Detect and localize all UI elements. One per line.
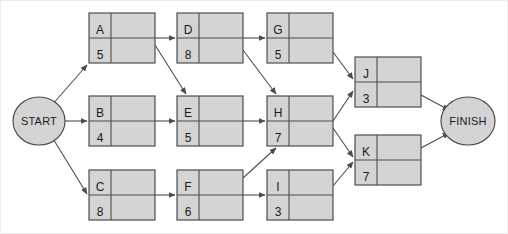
task-node-k[interactable]: K7 — [355, 135, 421, 185]
network-diagram-canvas: A5D8G5B4E5H7C8F6I3J3K7 STARTFINISH — [0, 0, 508, 234]
node-duration-label: 8 — [185, 48, 192, 62]
task-node-b[interactable]: B4 — [89, 96, 155, 146]
task-node-f[interactable]: F6 — [177, 170, 243, 220]
task-node-e[interactable]: E5 — [177, 96, 243, 146]
node-id-label: B — [96, 106, 104, 120]
task-node-i[interactable]: I3 — [267, 170, 333, 220]
node-id-label: H — [274, 106, 283, 120]
task-node-g[interactable]: G5 — [267, 13, 333, 63]
finish-label: FINISH — [449, 115, 486, 127]
task-node-c[interactable]: C8 — [89, 170, 155, 220]
node-id-label: I — [276, 180, 279, 194]
node-duration-label: 5 — [275, 48, 282, 62]
node-id-label: F — [184, 180, 191, 194]
task-node-d[interactable]: D8 — [177, 13, 243, 63]
node-duration-label: 6 — [185, 205, 192, 219]
node-id-label: D — [184, 23, 193, 37]
node-id-label: E — [184, 106, 192, 120]
task-node-h[interactable]: H7 — [267, 96, 333, 146]
node-duration-label: 5 — [97, 48, 104, 62]
task-node-a[interactable]: A5 — [89, 13, 155, 63]
node-id-label: J — [363, 67, 369, 81]
node-id-label: G — [273, 23, 282, 37]
diagram-frame — [1, 1, 508, 234]
task-node-j[interactable]: J3 — [355, 57, 421, 107]
terminal-node-finish[interactable]: FINISH — [441, 97, 495, 145]
node-duration-label: 4 — [97, 131, 104, 145]
terminal-node-start[interactable]: START — [13, 97, 65, 145]
node-duration-label: 5 — [185, 131, 192, 145]
node-duration-label: 7 — [275, 131, 282, 145]
node-id-label: C — [96, 180, 105, 194]
node-id-label: A — [96, 23, 104, 37]
network-diagram-svg: A5D8G5B4E5H7C8F6I3J3K7 STARTFINISH — [0, 0, 508, 234]
node-duration-label: 3 — [363, 92, 370, 106]
start-label: START — [21, 115, 57, 127]
node-id-label: K — [362, 145, 370, 159]
node-duration-label: 8 — [97, 205, 104, 219]
node-duration-label: 3 — [275, 205, 282, 219]
node-duration-label: 7 — [363, 170, 370, 184]
